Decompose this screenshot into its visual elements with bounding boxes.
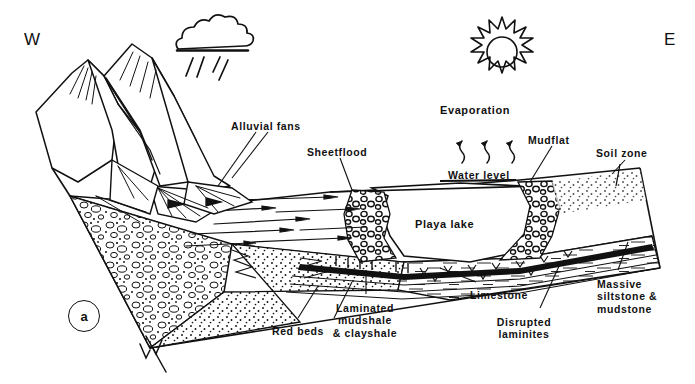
label-playa-lake: Playa lake (415, 218, 474, 231)
panel-label-text: a (80, 309, 87, 324)
label-limestone: Limestone (470, 289, 528, 301)
label-soil-zone: Soil zone (596, 147, 648, 159)
mudflat-surface (552, 170, 646, 214)
sky-and-weather (176, 15, 533, 163)
label-mudflat: Mudflat (528, 134, 570, 146)
label-laminated-mudshale: Laminated mudshale & clayshale (333, 302, 397, 339)
rain-streaks-icon (186, 57, 228, 80)
label-sheetflood: Sheetflood (307, 146, 367, 158)
label-red-beds: Red beds (272, 325, 324, 337)
label-water-level: Water level (448, 169, 510, 181)
compass-east: E (664, 30, 675, 50)
evaporation-arrows-icon (460, 141, 515, 163)
label-evaporation: Evaporation (440, 104, 510, 117)
panel-label: a (68, 300, 100, 332)
label-massive-siltstone: Massive siltstone & mudstone (597, 278, 657, 315)
sun-icon (471, 17, 533, 73)
playa-lake-block-diagram: W E a Alluvial fansSheetfloodEvaporation… (0, 0, 695, 384)
label-disrupted-laminites: Disrupted laminites (497, 316, 551, 341)
rain-cloud-icon (176, 15, 253, 51)
compass-west: W (24, 30, 40, 50)
label-alluvial-fans: Alluvial fans (231, 120, 301, 132)
